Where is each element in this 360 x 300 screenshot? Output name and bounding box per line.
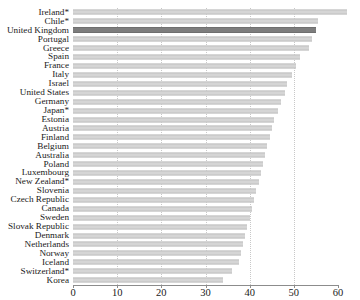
bar-row xyxy=(73,35,338,44)
x-tick-label-60: 60 xyxy=(333,288,344,299)
bar-korea xyxy=(73,278,223,283)
x-tick-label-0: 0 xyxy=(70,288,75,299)
bar-row xyxy=(73,8,338,17)
bar-chile xyxy=(73,19,318,24)
bar-switzerland xyxy=(73,269,232,274)
bar-estonia xyxy=(73,117,274,122)
bar-row xyxy=(73,124,338,133)
bar-row xyxy=(73,195,338,204)
bar-row xyxy=(73,222,338,231)
bar-row xyxy=(73,204,338,213)
bar-japan xyxy=(73,108,278,113)
bar-row xyxy=(73,186,338,195)
bar-row xyxy=(73,115,338,124)
bar-portugal xyxy=(73,37,312,42)
bar-row xyxy=(73,267,338,276)
bar-row xyxy=(73,70,338,79)
bar-netherlands xyxy=(73,242,243,247)
bar-spain xyxy=(73,55,300,60)
x-tick-label-20: 20 xyxy=(156,288,167,299)
plot-area xyxy=(73,8,338,285)
bar-slovak-republic xyxy=(73,224,247,229)
bar-row xyxy=(73,79,338,88)
bar-row xyxy=(73,169,338,178)
bar-row xyxy=(73,106,338,115)
bar-poland xyxy=(73,162,263,167)
y-label-korea: Korea xyxy=(0,276,71,285)
bar-ireland xyxy=(73,10,347,15)
bar-row xyxy=(73,240,338,249)
bar-new-zealand xyxy=(73,179,259,184)
bar-denmark xyxy=(73,233,245,238)
bar-belgium xyxy=(73,144,267,149)
bar-luxembourg xyxy=(73,171,261,176)
bar-united-kingdom xyxy=(73,27,316,33)
bar-row xyxy=(73,258,338,267)
bar-austria xyxy=(73,126,272,131)
y-axis-category-labels: Ireland*Chile*United KingdomPortugalGree… xyxy=(0,8,71,285)
x-tick-label-30: 30 xyxy=(200,288,211,299)
bar-france xyxy=(73,63,296,68)
bar-row xyxy=(73,142,338,151)
x-tick-label-50: 50 xyxy=(289,288,300,299)
bar-germany xyxy=(73,99,281,104)
bar-iceland xyxy=(73,260,239,265)
x-tick-label-10: 10 xyxy=(112,288,123,299)
x-tick-label-40: 40 xyxy=(244,288,255,299)
bar-czech-republic xyxy=(73,197,254,202)
bar-greece xyxy=(73,46,309,51)
bar-united-states xyxy=(73,90,285,95)
bar-finland xyxy=(73,135,270,140)
bar-israel xyxy=(73,81,287,86)
bar-row xyxy=(73,88,338,97)
horizontal-bar-chart: Ireland*Chile*United KingdomPortugalGree… xyxy=(0,0,360,300)
bar-row xyxy=(73,249,338,258)
bar-row xyxy=(73,97,338,106)
bar-slovenia xyxy=(73,188,256,193)
bar-row xyxy=(73,231,338,240)
bar-row xyxy=(73,133,338,142)
bar-sweden xyxy=(73,215,250,220)
bar-norway xyxy=(73,251,241,256)
bar-rows xyxy=(73,8,338,285)
bar-row xyxy=(73,151,338,160)
bar-row xyxy=(73,213,338,222)
bar-row xyxy=(73,160,338,169)
bar-row xyxy=(73,17,338,26)
bar-italy xyxy=(73,72,292,77)
bar-canada xyxy=(73,206,252,211)
bar-row xyxy=(73,26,338,35)
bar-row xyxy=(73,53,338,62)
bar-row xyxy=(73,178,338,187)
bar-australia xyxy=(73,153,265,158)
bar-row xyxy=(73,276,338,285)
bar-row xyxy=(73,62,338,71)
bar-row xyxy=(73,44,338,53)
